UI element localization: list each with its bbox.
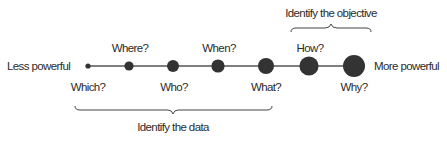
node-dot-what — [258, 58, 274, 74]
node-dot-which — [85, 63, 90, 68]
identify-objective-label: Identify the objective — [285, 8, 377, 20]
identify-data-label: Identify the data — [137, 122, 209, 134]
node-label-when: When? — [202, 43, 235, 55]
node-dot-how — [299, 56, 318, 75]
less-powerful-label: Less powerful — [7, 61, 70, 73]
bracket-identify-objective — [291, 24, 371, 32]
node-dot-who — [167, 60, 179, 72]
node-dot-when — [211, 59, 224, 72]
node-label-what: What? — [251, 82, 281, 94]
node-label-who: Who? — [160, 82, 188, 94]
more-powerful-label: More powerful — [374, 61, 439, 73]
node-label-where: Where? — [112, 43, 149, 55]
node-label-which: Which? — [71, 82, 106, 94]
node-label-how: How? — [296, 43, 323, 55]
bracket-identify-data — [75, 106, 272, 114]
node-dot-where — [124, 61, 133, 70]
node-dot-why — [343, 55, 365, 77]
question-power-diagram: Less powerful More powerful Which? Where… — [0, 0, 447, 145]
node-label-why: Why? — [341, 82, 368, 94]
diagram-graphics — [0, 0, 447, 145]
